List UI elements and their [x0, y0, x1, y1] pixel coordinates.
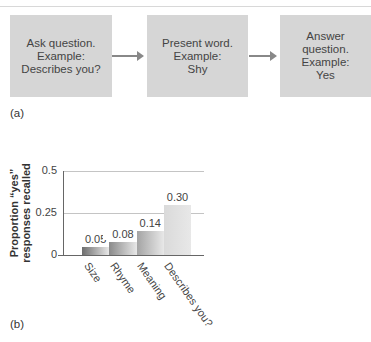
bar	[109, 242, 136, 255]
y-tick-label: 0.5	[42, 164, 57, 176]
x-category-label: Rhyme	[108, 260, 138, 295]
y-axis-title-line-2: responses recalled	[20, 153, 32, 273]
flow-step-answer-question: Answer question. Example: Yes	[280, 15, 371, 97]
x-axis	[58, 255, 204, 256]
y-tick-label: 0	[51, 248, 57, 260]
arrow-right-icon	[112, 55, 142, 57]
bar	[137, 231, 164, 255]
flow-step-present-word: Present word. Example: Shy	[147, 15, 248, 97]
flow-step-text: Present word. Example: Shy	[162, 37, 233, 76]
y-tick-label: 0.25	[36, 206, 57, 218]
panel-b-label: (b)	[10, 318, 24, 330]
gridline	[63, 171, 204, 172]
bar	[164, 205, 191, 255]
bar-value-label: 0.30	[158, 191, 198, 203]
x-category-label: Size	[82, 260, 104, 284]
flow-step-ask-question: Ask question. Example: Describes you?	[10, 15, 112, 97]
panel-a-label: (a)	[10, 107, 24, 119]
flow-step-text: Ask question. Example: Describes you?	[21, 37, 100, 76]
y-axis-title-line-1: Proportion “yes”	[8, 153, 20, 273]
arrow-right-icon	[249, 55, 275, 57]
x-category-label: Describes you?	[162, 260, 215, 329]
y-axis-title: Proportion “yes” responses recalled	[8, 153, 32, 273]
bar	[82, 247, 109, 255]
y-axis	[63, 171, 64, 256]
flow-step-text: Answer question. Example: Yes	[302, 30, 350, 82]
top-divider	[0, 6, 371, 7]
